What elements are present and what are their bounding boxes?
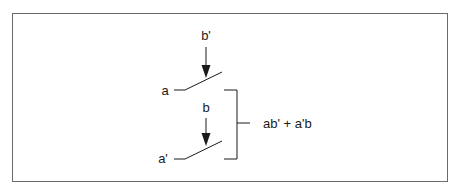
switch-diagram: b' a b a' ab' + a'b <box>0 0 456 189</box>
bracket-line <box>224 90 237 159</box>
output-bracket: ab' + a'b <box>224 90 312 159</box>
bottom-switch-blade <box>185 141 222 159</box>
bottom-input-label: a' <box>158 151 168 166</box>
bottom-arrow-head-icon <box>202 133 211 146</box>
output-expression: ab' + a'b <box>263 116 312 131</box>
top-switch: b' a <box>161 28 222 98</box>
top-arrow-head-icon <box>202 65 211 78</box>
top-switch-blade <box>185 72 222 90</box>
top-control-label: b' <box>201 28 211 43</box>
bottom-switch: b a' <box>158 100 222 166</box>
top-input-label: a <box>161 83 169 98</box>
frame-border <box>13 14 448 182</box>
bottom-control-label: b <box>202 100 209 115</box>
